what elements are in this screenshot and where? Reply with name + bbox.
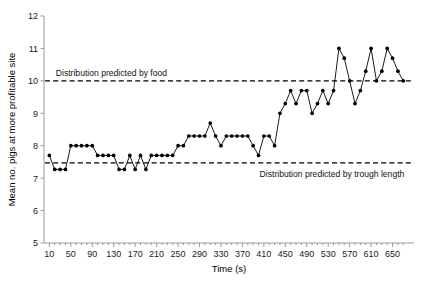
- x-tick-label: 210: [149, 249, 164, 259]
- x-tick-label: 570: [342, 249, 357, 259]
- data-point-marker: [160, 154, 164, 158]
- y-axis-title: Mean no. pigs at more profitable site: [6, 53, 17, 207]
- data-point-marker: [133, 168, 137, 172]
- y-tick-label: 5: [33, 238, 38, 248]
- data-point-marker: [278, 111, 282, 115]
- data-point-marker: [74, 144, 78, 148]
- y-tick-label: 11: [29, 44, 38, 54]
- data-point-marker: [187, 134, 191, 138]
- y-tick-label: 6: [33, 206, 38, 216]
- data-point-marker: [257, 154, 261, 158]
- data-point-marker: [128, 154, 132, 158]
- data-point-marker: [107, 154, 111, 158]
- data-point-marker: [182, 144, 186, 148]
- y-tick-label: 12: [28, 11, 38, 21]
- series-line-1: [49, 48, 403, 169]
- data-point-marker: [391, 56, 395, 60]
- data-point-marker: [58, 168, 62, 172]
- x-tick-label: 490: [299, 249, 314, 259]
- data-point-marker: [300, 89, 304, 93]
- data-point-marker: [396, 69, 400, 73]
- data-point-marker: [203, 134, 207, 138]
- data-point-marker: [235, 134, 239, 138]
- data-point-marker: [176, 144, 180, 148]
- data-point-marker: [348, 79, 352, 83]
- chart-container: 5678910111210509013017021025029033037041…: [0, 0, 423, 286]
- data-point-marker: [267, 134, 271, 138]
- data-point-marker: [224, 134, 228, 138]
- data-point-marker: [69, 144, 73, 148]
- data-point-marker: [283, 102, 287, 106]
- y-tick-label: 7: [33, 174, 38, 184]
- data-point-marker: [53, 168, 57, 172]
- x-tick-label: 610: [364, 249, 379, 259]
- data-point-marker: [198, 134, 202, 138]
- data-point-marker: [251, 144, 255, 148]
- x-axis-title: Time (s): [212, 263, 246, 274]
- data-point-marker: [90, 144, 94, 148]
- data-point-marker: [192, 134, 196, 138]
- line-chart: 5678910111210509013017021025029033037041…: [0, 0, 423, 286]
- data-point-marker: [112, 154, 116, 158]
- data-point-marker: [219, 144, 223, 148]
- data-point-marker: [326, 102, 330, 106]
- data-point-marker: [369, 47, 373, 51]
- data-point-marker: [64, 168, 68, 172]
- data-point-marker: [149, 154, 153, 158]
- data-point-marker: [85, 144, 89, 148]
- data-point-marker: [294, 102, 298, 106]
- data-point-marker: [316, 102, 320, 106]
- data-point-marker: [241, 134, 245, 138]
- data-point-marker: [321, 89, 325, 93]
- x-tick-label: 250: [171, 249, 186, 259]
- data-point-marker: [342, 56, 346, 60]
- data-point-marker: [332, 89, 336, 93]
- data-point-marker: [214, 134, 218, 138]
- data-point-marker: [289, 89, 293, 93]
- data-point-marker: [171, 154, 175, 158]
- data-point-marker: [401, 79, 405, 83]
- reference-line-label-2: Distribution predicted by trough length: [260, 169, 405, 179]
- x-tick-label: 650: [385, 249, 400, 259]
- data-point-marker: [337, 47, 341, 51]
- x-tick-label: 130: [106, 249, 121, 259]
- x-tick-label: 450: [278, 249, 293, 259]
- data-point-marker: [117, 168, 121, 172]
- data-point-marker: [123, 168, 127, 172]
- data-point-marker: [364, 69, 368, 73]
- data-point-marker: [144, 168, 148, 172]
- x-tick-label: 530: [321, 249, 336, 259]
- reference-line-label-1: Distribution predicted by food: [56, 68, 168, 78]
- data-point-marker: [139, 154, 143, 158]
- x-tick-label: 290: [192, 249, 207, 259]
- x-tick-label: 10: [44, 249, 54, 259]
- data-point-marker: [96, 154, 100, 158]
- data-point-marker: [230, 134, 234, 138]
- data-point-marker: [273, 144, 277, 148]
- y-tick-label: 9: [33, 109, 38, 119]
- data-point-marker: [310, 111, 314, 115]
- data-point-marker: [155, 154, 159, 158]
- data-point-marker: [353, 102, 357, 106]
- data-point-marker: [208, 121, 212, 125]
- data-point-marker: [262, 134, 266, 138]
- data-point-marker: [101, 154, 105, 158]
- data-point-marker: [80, 144, 84, 148]
- data-point-marker: [380, 69, 384, 73]
- data-point-marker: [305, 89, 309, 93]
- data-point-marker: [359, 89, 363, 93]
- data-point-marker: [165, 154, 169, 158]
- y-tick-label: 10: [28, 76, 38, 86]
- data-point-marker: [246, 134, 250, 138]
- x-tick-label: 90: [87, 249, 97, 259]
- x-tick-label: 330: [213, 249, 228, 259]
- data-point-marker: [375, 79, 379, 83]
- x-tick-label: 370: [235, 249, 250, 259]
- data-point-marker: [48, 154, 52, 158]
- x-tick-label: 410: [256, 249, 271, 259]
- x-tick-label: 170: [128, 249, 143, 259]
- y-tick-label: 8: [33, 141, 38, 151]
- x-tick-label: 50: [66, 249, 76, 259]
- data-point-marker: [385, 47, 389, 51]
